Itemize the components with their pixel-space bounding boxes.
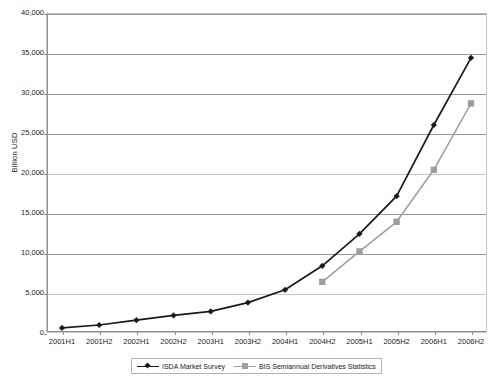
legend-label-bis: BIS Semiannual Derivatives Statistics <box>259 363 376 370</box>
data-series-layer <box>46 13 487 333</box>
y-tick-label-35000: 35,000 <box>2 48 44 57</box>
data-point-marker <box>208 308 214 314</box>
y-tick-label-15000: 15,000 <box>2 208 44 217</box>
data-point-marker <box>431 167 437 173</box>
data-point-marker <box>431 122 437 128</box>
y-axis-title: Billion USD <box>10 113 19 193</box>
legend-marker-square-icon <box>234 362 256 371</box>
y-tick-label-0: 0 <box>2 328 44 337</box>
data-point-marker <box>319 279 325 285</box>
data-point-marker <box>96 322 102 328</box>
data-point-marker <box>245 300 251 306</box>
y-tick-label-20000: 20,000 <box>2 168 44 177</box>
data-point-marker <box>356 248 362 254</box>
data-point-marker <box>468 100 474 106</box>
y-tick-label-25000: 25,000 <box>2 128 44 137</box>
chart-container: Billion USD 05,00010,00015,00020,00025,0… <box>0 0 497 380</box>
y-tickmark-0 <box>44 334 47 335</box>
data-point-marker <box>133 317 139 323</box>
data-point-marker <box>170 312 176 318</box>
legend-entry-isda: ISDA Market Survey <box>137 362 225 371</box>
series-line-isda <box>62 58 471 328</box>
data-point-marker <box>393 219 399 225</box>
data-point-marker <box>59 325 65 331</box>
y-tick-label-40000: 40,000 <box>2 8 44 17</box>
legend-marker-diamond-icon <box>137 362 159 371</box>
x-tick-label-2006H2: 2006H2 <box>448 337 494 346</box>
y-tick-label-10000: 10,000 <box>2 248 44 257</box>
chart-legend: ISDA Market Survey BIS Semiannual Deriva… <box>131 358 382 374</box>
legend-label-isda: ISDA Market Survey <box>162 363 225 370</box>
y-tick-label-30000: 30,000 <box>2 88 44 97</box>
series-line-bis <box>322 103 471 281</box>
legend-entry-bis: BIS Semiannual Derivatives Statistics <box>234 362 376 371</box>
y-tick-label-5000: 5,000 <box>2 288 44 297</box>
